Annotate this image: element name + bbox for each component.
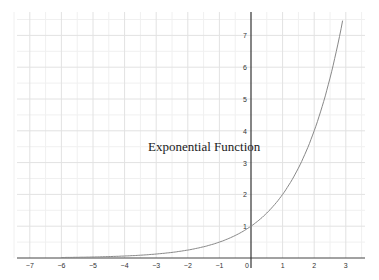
y-tick-label: 5: [243, 96, 247, 103]
y-tick-label: 3: [243, 160, 247, 167]
x-tick-label: −4: [121, 262, 129, 269]
y-tick-label: 4: [243, 128, 247, 135]
x-tick-label: −5: [89, 262, 97, 269]
x-tick-label: −3: [152, 262, 160, 269]
y-tick-labels: 1234567: [243, 32, 247, 230]
y-tick-label: 7: [243, 32, 247, 39]
x-tick-label: −2: [184, 262, 192, 269]
x-tick-label: 3: [344, 262, 348, 269]
x-tick-label: 1: [281, 262, 285, 269]
exponential-chart: −7−6−5−4−3−2−10123 1234567 Exponential F…: [0, 0, 379, 280]
y-tick-label: 2: [243, 191, 247, 198]
x-tick-label: −6: [57, 262, 65, 269]
x-tick-label: −7: [26, 262, 34, 269]
x-tick-label: 0: [245, 262, 249, 269]
y-tick-label: 6: [243, 64, 247, 71]
x-tick-labels: −7−6−5−4−3−2−10123: [26, 262, 348, 269]
x-tick-label: 2: [312, 262, 316, 269]
chart-title: Exponential Function: [148, 139, 261, 154]
x-tick-label: −1: [215, 262, 223, 269]
